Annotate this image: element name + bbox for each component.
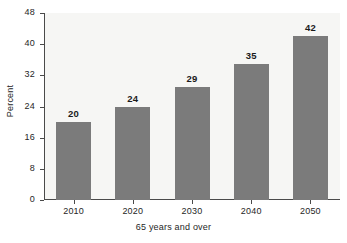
chart-figure: Percent 081624324048 2024293542 20102020…	[0, 0, 347, 243]
bar-group[interactable]	[115, 13, 150, 200]
y-axis-tick-label: 32	[25, 69, 35, 79]
x-axis-tick-label: 2050	[280, 206, 340, 216]
bar-group[interactable]	[234, 13, 269, 200]
y-axis-tick-label: 24	[25, 101, 35, 111]
bar[interactable]	[234, 64, 269, 200]
bar-group[interactable]	[56, 13, 91, 200]
x-axis-tick-label: 2040	[221, 206, 281, 216]
bar-group[interactable]	[293, 13, 328, 200]
x-axis-title: 65 years and over	[0, 222, 347, 232]
x-axis-tick-mark	[251, 200, 252, 204]
x-axis-tick-label: 2020	[103, 206, 163, 216]
bar-value-label: 20	[56, 108, 91, 119]
bar-value-label: 24	[115, 93, 150, 104]
y-axis-tick-label: 16	[25, 132, 35, 142]
bar[interactable]	[115, 107, 150, 201]
y-axis-tick-label: 48	[25, 7, 35, 17]
bar-value-label: 42	[293, 22, 328, 33]
bar-value-label: 29	[175, 73, 210, 84]
y-axis-tick-mark	[40, 200, 44, 201]
bar[interactable]	[293, 36, 328, 200]
x-axis-tick-label: 2010	[44, 206, 104, 216]
x-axis-tick-mark	[192, 200, 193, 204]
y-axis-tick-label: 8	[30, 163, 35, 173]
bar[interactable]	[56, 122, 91, 200]
bar-value-label: 35	[234, 50, 269, 61]
x-axis-tick-mark	[133, 200, 134, 204]
y-axis-tick-label: 40	[25, 38, 35, 48]
y-axis-tick-label: 0	[30, 194, 35, 204]
x-axis-tick-mark	[310, 200, 311, 204]
bar[interactable]	[175, 87, 210, 200]
x-axis-tick-label: 2030	[162, 206, 222, 216]
bar-group[interactable]	[175, 13, 210, 200]
x-axis-tick-mark	[74, 200, 75, 204]
y-axis: 081624324048	[0, 0, 44, 200]
